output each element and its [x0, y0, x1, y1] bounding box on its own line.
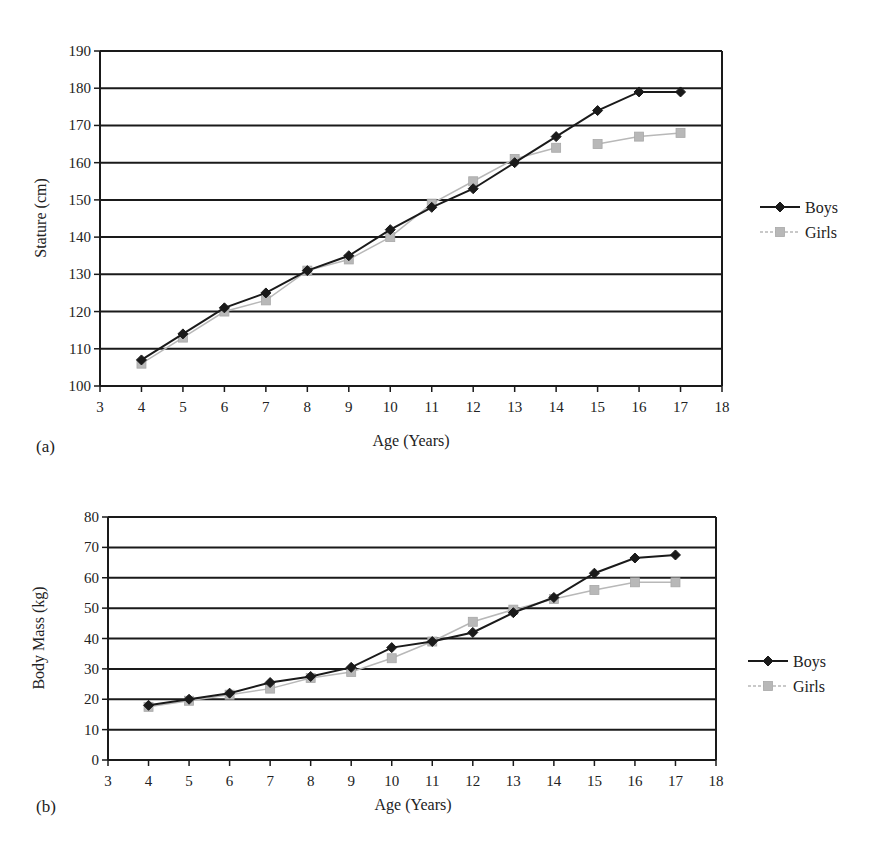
legend: BoysGirls — [748, 653, 826, 695]
x-tick-label: 18 — [709, 773, 724, 789]
x-tick-label: 16 — [627, 773, 643, 789]
data-point — [593, 106, 603, 116]
legend-marker-girls-icon — [764, 682, 773, 691]
data-point — [630, 553, 640, 563]
body-mass-chart-panel: 0102030405060708034567891011121314151617… — [30, 509, 826, 816]
data-point — [552, 143, 561, 152]
data-point — [671, 578, 680, 587]
x-tick-label: 7 — [262, 399, 270, 415]
x-tick-label: 10 — [384, 773, 399, 789]
legend-marker-girls-icon — [776, 228, 785, 237]
data-point — [670, 550, 680, 560]
data-point — [468, 617, 477, 626]
y-tick-label: 70 — [84, 539, 99, 555]
y-axis-title: Body Mass (kg) — [30, 586, 48, 689]
x-tick-label: 4 — [138, 399, 146, 415]
y-tick-label: 30 — [84, 661, 99, 677]
y-tick-label: 170 — [69, 117, 92, 133]
data-point — [593, 140, 602, 149]
y-tick-label: 180 — [69, 80, 92, 96]
x-tick-label: 15 — [590, 399, 605, 415]
x-tick-label: 5 — [179, 399, 187, 415]
x-tick-label: 15 — [587, 773, 602, 789]
data-point — [551, 132, 561, 142]
legend-label-boys: Boys — [805, 199, 838, 217]
y-tick-label: 60 — [84, 570, 99, 586]
x-tick-label: 6 — [221, 399, 229, 415]
legend-label-girls: Girls — [805, 224, 837, 241]
x-tick-label: 6 — [226, 773, 234, 789]
y-tick-label: 130 — [69, 266, 92, 282]
y-tick-label: 120 — [69, 304, 92, 320]
series-boys — [144, 550, 681, 710]
data-point — [676, 128, 685, 137]
x-tick-label: 8 — [304, 399, 312, 415]
x-tick-label: 13 — [507, 399, 522, 415]
y-tick-label: 40 — [84, 631, 99, 647]
series-boys — [136, 87, 685, 365]
y-tick-label: 50 — [84, 600, 99, 616]
data-point — [387, 654, 396, 663]
x-tick-label: 14 — [546, 773, 562, 789]
x-tick-label: 5 — [185, 773, 193, 789]
series-line — [141, 92, 680, 360]
x-tick-label: 17 — [673, 399, 689, 415]
x-tick-label: 18 — [715, 399, 730, 415]
y-tick-label: 10 — [84, 722, 99, 738]
y-tick-label: 140 — [69, 229, 92, 245]
y-tick-label: 20 — [84, 691, 99, 707]
x-tick-label: 4 — [145, 773, 153, 789]
x-tick-label: 8 — [307, 773, 315, 789]
legend-label-girls: Girls — [793, 678, 825, 695]
y-tick-label: 150 — [69, 192, 92, 208]
legend-marker-boys-icon — [775, 202, 785, 212]
x-tick-label: 11 — [425, 399, 439, 415]
x-tick-label: 12 — [466, 399, 481, 415]
x-tick-label: 3 — [104, 773, 112, 789]
y-tick-label: 190 — [69, 43, 92, 59]
x-tick-label: 9 — [347, 773, 355, 789]
x-tick-label: 3 — [96, 399, 104, 415]
x-tick-label: 14 — [549, 399, 565, 415]
x-axis-title: Age (Years) — [374, 796, 451, 814]
panel-label: (b) — [36, 797, 56, 816]
x-axis-title: Age (Years) — [372, 432, 449, 450]
data-point — [635, 132, 644, 141]
x-tick-label: 11 — [425, 773, 439, 789]
legend-label-boys: Boys — [793, 653, 826, 671]
x-tick-label: 9 — [345, 399, 353, 415]
x-tick-label: 13 — [506, 773, 521, 789]
x-tick-label: 7 — [266, 773, 274, 789]
series-girls — [137, 128, 685, 368]
y-axis-title: Stature (cm) — [32, 178, 50, 258]
data-point — [387, 643, 397, 653]
data-point — [589, 568, 599, 578]
stature-chart-panel: 1001101201301401501601701801903456789101… — [32, 43, 838, 456]
x-tick-label: 17 — [668, 773, 684, 789]
y-tick-label: 80 — [84, 509, 99, 525]
legend-marker-boys-icon — [763, 656, 773, 666]
y-tick-label: 0 — [92, 752, 100, 768]
y-tick-label: 110 — [69, 341, 91, 357]
data-point — [468, 627, 478, 637]
x-tick-label: 16 — [632, 399, 648, 415]
x-tick-label: 10 — [383, 399, 398, 415]
panel-label: (a) — [36, 437, 55, 456]
y-tick-label: 100 — [69, 378, 92, 394]
data-point — [590, 585, 599, 594]
y-tick-label: 160 — [69, 155, 92, 171]
data-point — [630, 578, 639, 587]
legend: BoysGirls — [760, 199, 838, 241]
x-tick-label: 12 — [465, 773, 480, 789]
figure-canvas: 1001101201301401501601701801903456789101… — [0, 0, 881, 854]
